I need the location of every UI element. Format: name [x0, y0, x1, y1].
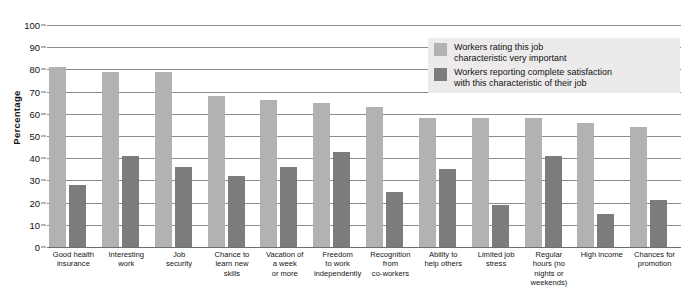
y-tick-dash-40 [41, 158, 46, 159]
gridline-0 [47, 247, 681, 248]
bar-series-b [650, 200, 667, 247]
bar-group [47, 25, 100, 247]
x-axis-label: Freedom to work independently [308, 250, 367, 278]
y-tick-dash-90 [41, 47, 46, 48]
bar-group [364, 25, 417, 247]
y-tick-label-100: 100 [24, 20, 40, 31]
bar-series-b [439, 169, 456, 247]
y-tick-label-40: 40 [29, 153, 40, 164]
bar-series-a [419, 118, 436, 247]
legend-label: Workers reporting complete satisfaction … [454, 67, 612, 88]
y-tick-dash-60 [41, 113, 46, 114]
x-axis-label: Interesting work [97, 250, 156, 269]
bar-chart: Percentage 0102030405060708090100 Good h… [0, 0, 685, 291]
y-tick-label-80: 80 [29, 64, 40, 75]
legend-swatch-icon [434, 43, 447, 56]
y-tick-label-30: 30 [29, 175, 40, 186]
y-axis-title: Percentage [11, 63, 22, 173]
bar-series-b [175, 167, 192, 247]
legend-label: Workers rating this job characteristic v… [454, 42, 567, 63]
y-tick-label-20: 20 [29, 197, 40, 208]
x-axis-label: Regular hours (no nights or weekends) [520, 250, 579, 288]
bar-series-b [386, 192, 403, 248]
bar-series-b [122, 156, 139, 247]
legend-item: Workers reporting complete satisfaction … [434, 67, 676, 88]
y-tick-label-70: 70 [29, 86, 40, 97]
bar-series-a [260, 100, 277, 247]
bar-series-b [545, 156, 562, 247]
x-axis-label: Ability to help others [414, 250, 473, 269]
x-axis-label: Vacation of a week or more [255, 250, 314, 278]
x-axis-label: High income [572, 250, 631, 259]
bar-series-a [155, 72, 172, 247]
y-tick-dash-30 [41, 180, 46, 181]
y-tick-dash-0 [41, 247, 46, 248]
y-tick-dash-80 [41, 69, 46, 70]
x-axis-category-labels: Good health insuranceInteresting workJob… [47, 250, 681, 291]
bar-series-a [630, 127, 647, 247]
bar-group [258, 25, 311, 247]
x-axis-label: Chance to learn new skills [203, 250, 262, 278]
y-tick-dash-70 [41, 91, 46, 92]
y-tick-dash-100 [41, 25, 46, 26]
x-axis-label: Limited job stress [467, 250, 526, 269]
chart-legend: Workers rating this job characteristic v… [428, 38, 680, 93]
legend-item: Workers rating this job characteristic v… [434, 42, 676, 63]
y-tick-dash-10 [41, 224, 46, 225]
y-tick-dash-50 [41, 136, 46, 137]
bar-series-b [333, 152, 350, 247]
bar-series-b [280, 167, 297, 247]
bar-group [311, 25, 364, 247]
y-tick-dash-20 [41, 202, 46, 203]
bar-series-a [366, 107, 383, 247]
bar-series-b [69, 185, 86, 247]
bar-group [100, 25, 153, 247]
y-tick-label-60: 60 [29, 108, 40, 119]
x-axis-label: Chances for promotion [625, 250, 684, 269]
bar-group [153, 25, 206, 247]
bar-group [206, 25, 259, 247]
bar-series-a [102, 72, 119, 247]
bar-series-b [492, 205, 509, 247]
bar-series-a [577, 123, 594, 247]
legend-swatch-icon [434, 68, 447, 81]
bar-series-b [597, 214, 614, 247]
y-tick-label-90: 90 [29, 42, 40, 53]
bar-series-a [472, 118, 489, 247]
bar-series-a [313, 103, 330, 247]
y-tick-label-0: 0 [35, 242, 40, 253]
x-axis-label: Recognition from co-workers [361, 250, 420, 278]
bar-series-a [208, 96, 225, 247]
x-axis-label: Good health insurance [44, 250, 103, 269]
y-tick-label-10: 10 [29, 219, 40, 230]
bar-series-a [49, 67, 66, 247]
y-tick-label-50: 50 [29, 131, 40, 142]
bar-series-b [228, 176, 245, 247]
bar-series-a [525, 118, 542, 247]
x-axis-label: Job security [150, 250, 209, 269]
